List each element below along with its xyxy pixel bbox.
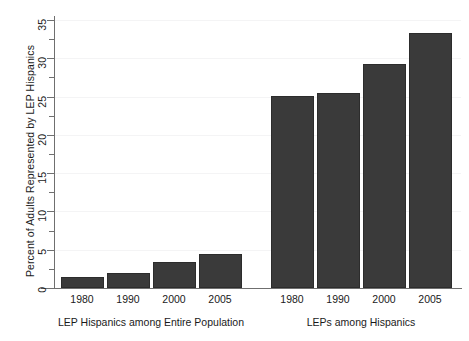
y-tick-label-10: 10 <box>36 210 48 236</box>
x-tick-label-population-1980: 1980 <box>57 293 107 305</box>
bar-population-2000 <box>153 262 196 288</box>
x-tick-label-population-2000: 2000 <box>149 293 199 305</box>
y-tick-label-wrap-5: 5 <box>14 243 42 257</box>
y-tick-major-30 <box>47 58 55 59</box>
y-tick-label-wrap-0: 0 <box>14 281 42 295</box>
bar-population-1980 <box>61 277 104 288</box>
y-tick-label-15: 15 <box>36 172 48 198</box>
y-tick-label-0: 0 <box>36 287 48 313</box>
bar-hispanics-2005 <box>409 33 452 288</box>
y-tick-label-wrap-35: 35 <box>14 13 42 27</box>
y-tick-major-25 <box>47 97 55 98</box>
x-tick-label-hispanics-2000: 2000 <box>359 293 409 305</box>
bar-hispanics-1980 <box>271 96 314 288</box>
y-tick-minor-22.5 <box>49 116 55 117</box>
y-tick-label-wrap-10: 10 <box>14 204 42 218</box>
y-tick-label-20: 20 <box>36 134 48 160</box>
y-tick-major-5 <box>47 250 55 251</box>
y-tick-major-15 <box>47 173 55 174</box>
bar-population-1990 <box>107 273 150 288</box>
y-tick-label-wrap-30: 30 <box>14 51 42 65</box>
x-tick-label-population-2005: 2005 <box>195 293 245 305</box>
x-tick-label-hispanics-1990: 1990 <box>313 293 363 305</box>
x-tick-label-hispanics-1980: 1980 <box>267 293 317 305</box>
y-tick-minor-27.5 <box>49 77 55 78</box>
x-tick-label-population-1990: 1990 <box>103 293 153 305</box>
gridline-30 <box>55 58 461 59</box>
y-tick-minor-2.5 <box>49 269 55 270</box>
gridline-35 <box>55 20 461 21</box>
y-tick-major-35 <box>47 20 55 21</box>
y-tick-minor-7.5 <box>49 231 55 232</box>
y-tick-major-10 <box>47 211 55 212</box>
group-label-right: LEPs among Hispanics <box>232 316 469 328</box>
y-tick-minor-17.5 <box>49 154 55 155</box>
y-axis-spine <box>54 16 55 289</box>
y-tick-label-5: 5 <box>36 249 48 275</box>
bar-hispanics-2000 <box>363 64 406 288</box>
y-tick-minor-32.5 <box>49 39 55 40</box>
bar-hispanics-1990 <box>317 93 360 288</box>
y-tick-minor-12.5 <box>49 192 55 193</box>
x-axis-baseline <box>41 288 462 289</box>
y-tick-label-wrap-15: 15 <box>14 166 42 180</box>
y-tick-label-25: 25 <box>36 96 48 122</box>
bar-chart-figure: Percent of Adults Represented by LEP His… <box>0 0 469 341</box>
bar-population-2005 <box>199 254 242 288</box>
y-tick-label-wrap-25: 25 <box>14 90 42 104</box>
y-tick-major-20 <box>47 135 55 136</box>
y-tick-major-0 <box>47 288 55 289</box>
x-tick-label-hispanics-2005: 2005 <box>405 293 455 305</box>
y-tick-label-wrap-20: 20 <box>14 128 42 142</box>
y-tick-label-35: 35 <box>36 19 48 45</box>
y-tick-label-30: 30 <box>36 57 48 83</box>
